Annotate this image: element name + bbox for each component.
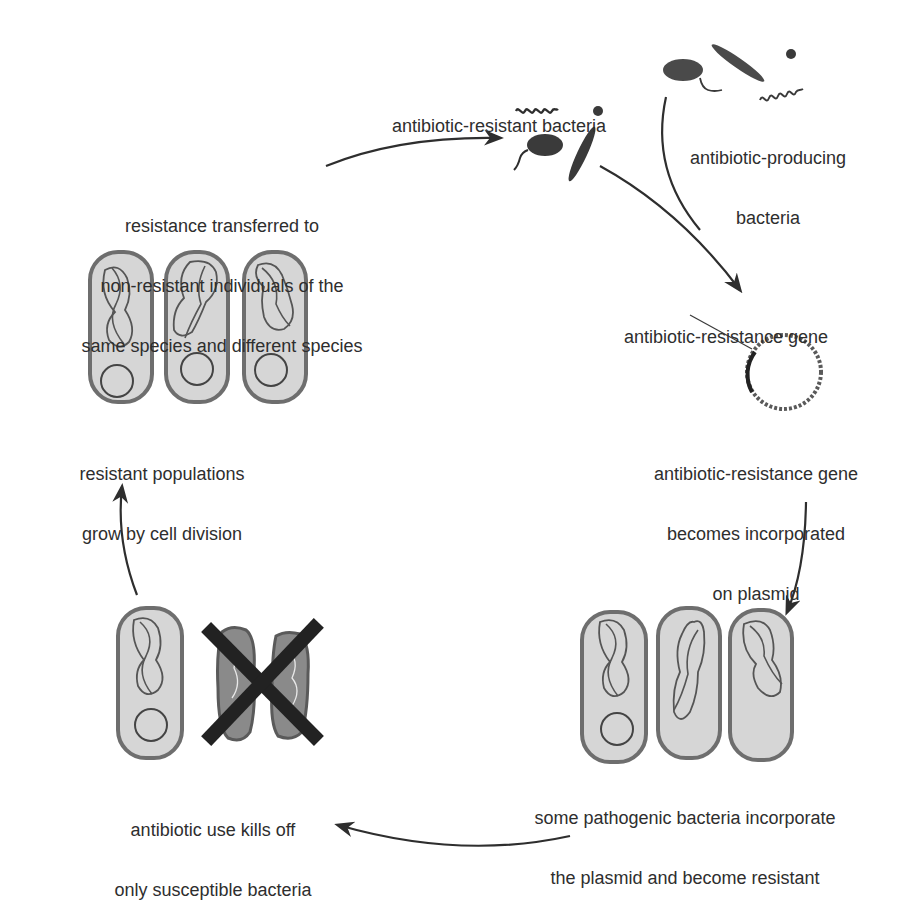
- coccus-bacterium-icon: [786, 49, 796, 59]
- bacterial-cell: [658, 608, 720, 758]
- flagellum-icon: [700, 78, 722, 91]
- antibiotic-kill-group: [118, 608, 314, 758]
- label-antibiotic-use: antibiotic use kills off only susceptibl…: [88, 780, 338, 904]
- label-resistance-gene: antibiotic-resistance gene: [606, 287, 846, 367]
- label-population-growth: resistant populations grow by cell divis…: [62, 424, 262, 564]
- pathogenic-cells: [582, 608, 792, 762]
- label-resistant-bacteria: antibiotic-resistant bacteria: [374, 76, 624, 156]
- producing-bacteria-cluster: [663, 41, 803, 101]
- bacterial-cell: [730, 610, 792, 760]
- label-pathogens-incorporate: some pathogenic bacteria incorporate the…: [520, 768, 850, 904]
- flagellated-bacterium-icon: [663, 59, 703, 81]
- label-producing-bacteria: antibiotic-producing bacteria: [668, 108, 868, 248]
- rod-bacterium-icon: [709, 41, 767, 86]
- spiral-bacterium-icon: [760, 89, 803, 101]
- label-resistance-transfer: resistance transferred to non-resistant …: [72, 176, 372, 376]
- bacterial-cell: [582, 612, 646, 762]
- surviving-resistant-cell: [118, 608, 182, 758]
- label-gene-on-plasmid: antibiotic-resistance gene becomes incor…: [636, 424, 876, 624]
